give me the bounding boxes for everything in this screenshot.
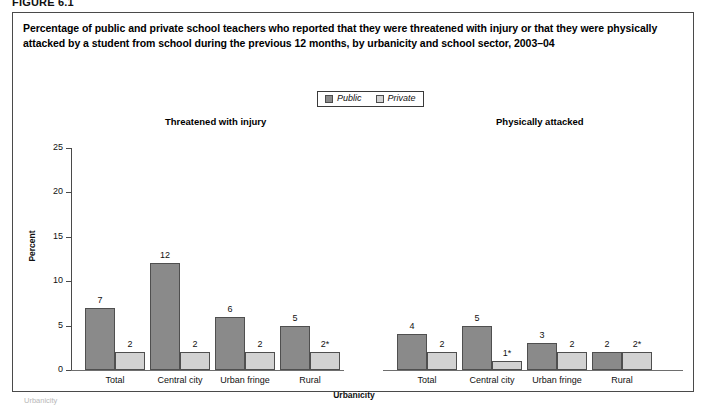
- y-axis-tick-label: 25: [29, 143, 63, 152]
- bar-value-label: 2: [239, 340, 281, 349]
- bar-private-central-city-attacked: [492, 361, 522, 370]
- bar-value-label: 2: [174, 340, 216, 349]
- category-label-rural: Rural: [262, 375, 358, 385]
- bar-value-label: 5: [274, 314, 316, 323]
- bar-public-total-threatened: [85, 308, 115, 370]
- bar-value-label: 2: [421, 340, 463, 349]
- bar-value-label: 2*: [304, 340, 346, 349]
- y-axis-tick: [66, 237, 71, 238]
- y-axis-tick: [66, 281, 71, 282]
- y-axis-title: Percent: [27, 216, 37, 276]
- bar-value-label: 2: [109, 340, 151, 349]
- plot-area: Threatened with injury Physically attack…: [13, 13, 695, 393]
- y-axis-tick: [66, 326, 71, 327]
- bar-private-total-attacked: [427, 352, 457, 370]
- bar-private-urban-fringe-attacked: [557, 352, 587, 370]
- bar-value-label: 4: [391, 322, 433, 331]
- category-label-rural: Rural: [574, 375, 670, 385]
- bar-value-label: 7: [79, 296, 121, 305]
- figure-number: FIGURE 6.1: [12, 0, 74, 8]
- y-axis-tick: [66, 192, 71, 193]
- y-axis-tick-label: 20: [29, 187, 63, 196]
- x-axis-title: Urbanicity: [13, 390, 695, 400]
- bar-value-label: 5: [456, 314, 498, 323]
- y-axis-tick-label: 15: [29, 232, 63, 241]
- y-axis-tick: [66, 148, 71, 149]
- bar-private-rural-threatened: [310, 352, 340, 370]
- y-axis-tick-label: 5: [29, 321, 63, 330]
- y-axis-tick-label-wrap: 15: [25, 232, 63, 242]
- bar-value-label: 1*: [486, 349, 528, 358]
- bar-value-label: 6: [209, 305, 251, 314]
- x-axis-baseline-right: [383, 370, 683, 371]
- bar-private-rural-attacked: [622, 352, 652, 370]
- bar-public-central-city-threatened: [150, 263, 180, 370]
- figure-container: Percentage of public and private school …: [12, 12, 694, 392]
- bar-public-rural-attacked: [592, 352, 622, 370]
- y-axis-tick-label: 10: [29, 276, 63, 285]
- bar-private-urban-fringe-threatened: [245, 352, 275, 370]
- y-axis-tick-label: 0: [29, 365, 63, 374]
- y-axis-tick-label-wrap: 5: [25, 321, 63, 331]
- y-axis-tick-label-wrap: 10: [25, 276, 63, 286]
- bar-value-label: 12: [144, 251, 186, 260]
- y-axis-tick-label-wrap: 0: [25, 365, 63, 375]
- panel-title-threatened: Threatened with injury: [165, 116, 266, 127]
- y-axis-tick-label-wrap: 25: [25, 143, 63, 153]
- panel-title-attacked: Physically attacked: [496, 116, 584, 127]
- y-axis-tick-label-wrap: 20: [25, 187, 63, 197]
- bar-private-total-threatened: [115, 352, 145, 370]
- bar-private-central-city-threatened: [180, 352, 210, 370]
- figure-footnote: Urbanicity: [24, 396, 57, 405]
- bar-public-central-city-attacked: [462, 326, 492, 370]
- bar-value-label: 2*: [616, 340, 658, 349]
- x-axis-baseline-left: [71, 370, 344, 371]
- bar-value-label: 3: [521, 331, 563, 340]
- y-axis-line: [71, 148, 72, 370]
